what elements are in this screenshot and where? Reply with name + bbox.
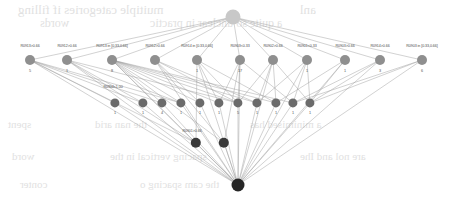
edge bbox=[238, 60, 380, 185]
edge bbox=[238, 103, 257, 185]
level1-node-3[interactable] bbox=[150, 55, 160, 65]
level1-node-0[interactable] bbox=[25, 55, 35, 65]
level1-node-5[interactable] bbox=[235, 55, 245, 65]
level1-node-6[interactable] bbox=[268, 55, 278, 65]
edge bbox=[238, 60, 307, 185]
diagram-canvas: muitiple categories if fillinganlwordsa … bbox=[0, 0, 470, 202]
edge bbox=[233, 17, 380, 60]
edge bbox=[67, 60, 143, 103]
edge bbox=[293, 60, 422, 103]
edge bbox=[238, 60, 273, 185]
level1-node-2[interactable] bbox=[107, 55, 117, 65]
level1-node-7[interactable] bbox=[302, 55, 312, 65]
edge bbox=[276, 60, 345, 103]
edge bbox=[30, 60, 143, 103]
edge bbox=[310, 60, 380, 103]
edge bbox=[155, 17, 233, 60]
edge bbox=[293, 60, 380, 103]
edge bbox=[112, 60, 238, 103]
root-node-bottom[interactable] bbox=[232, 179, 245, 192]
edge bbox=[238, 60, 273, 103]
edge bbox=[238, 103, 276, 185]
edge bbox=[238, 60, 345, 185]
edge bbox=[273, 60, 310, 103]
edge bbox=[307, 60, 310, 103]
edge bbox=[273, 60, 276, 103]
edge bbox=[233, 17, 422, 60]
edge bbox=[257, 60, 307, 103]
edge bbox=[112, 60, 200, 103]
edge bbox=[67, 60, 238, 103]
edge bbox=[155, 60, 238, 185]
edge bbox=[67, 17, 233, 60]
level1-node-8[interactable] bbox=[340, 55, 350, 65]
root-node-top[interactable] bbox=[226, 10, 241, 25]
edge bbox=[67, 60, 238, 185]
level1-node-4[interactable] bbox=[192, 55, 202, 65]
level1-node-9[interactable] bbox=[375, 55, 385, 65]
edge bbox=[112, 60, 276, 103]
edge bbox=[197, 60, 219, 103]
edge bbox=[30, 60, 181, 103]
edge bbox=[233, 17, 307, 60]
level1-node-1[interactable] bbox=[62, 55, 72, 65]
edge bbox=[30, 60, 162, 103]
level1-node-10[interactable] bbox=[417, 55, 427, 65]
